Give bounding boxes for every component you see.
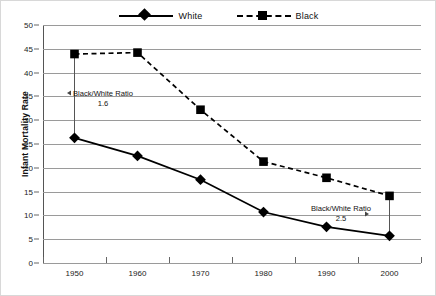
y-axis-tick-label: 25 <box>24 140 33 149</box>
y-axis-tick-mark <box>34 215 39 216</box>
chart-legend: White Black <box>1 7 436 25</box>
infant-mortality-chart: White Black Infant Mortality Rate 504540… <box>0 0 436 296</box>
y-axis-tick-label: 50 <box>24 21 33 30</box>
y-axis-tick-mark <box>34 48 39 49</box>
y-axis-tick-mark <box>34 263 39 264</box>
x-axis-tick-label: 1970 <box>192 269 210 278</box>
y-axis-tick-mark <box>34 191 39 192</box>
y-axis-tick-mark <box>34 25 39 26</box>
y-axis-tick-mark <box>34 120 39 121</box>
y-axis-tick-mark <box>34 96 39 97</box>
legend-label-white: White <box>178 11 202 21</box>
x-axis-tick-label: 2000 <box>381 269 399 278</box>
data-point-white <box>258 207 269 218</box>
y-axis-tick-label: 45 <box>24 44 33 53</box>
series-layer <box>43 25 421 263</box>
data-point-black <box>133 48 142 57</box>
legend-entry-white: White <box>119 10 202 22</box>
y-axis-tick-mark <box>34 72 39 73</box>
y-axis-tick-label: 30 <box>24 116 33 125</box>
gridline <box>43 263 421 264</box>
legend-entry-black: Black <box>237 10 319 22</box>
annotation-ratio-2000: Black/White Ratio 2.5 <box>311 204 371 225</box>
data-point-white <box>132 151 143 162</box>
x-axis-tick-mark <box>43 257 44 263</box>
annotation-arrow-icon <box>67 91 71 96</box>
annotation-ratio-1950: Black/White Ratio 1.6 <box>73 89 133 110</box>
x-axis-tick-mark <box>232 257 233 263</box>
y-axis-tick-label: 0 <box>29 259 33 268</box>
data-point-white <box>69 132 80 143</box>
y-axis-tick-label: 35 <box>24 92 33 101</box>
x-axis-tick-mark <box>295 257 296 263</box>
y-axis-tick-labels: 50454035302520151050 <box>15 25 39 263</box>
data-point-black <box>196 105 205 114</box>
y-axis-tick-mark <box>34 167 39 168</box>
series-line-black <box>75 53 390 196</box>
data-point-black <box>385 192 394 201</box>
data-point-black <box>259 157 268 166</box>
y-axis-tick-label: 20 <box>24 163 33 172</box>
data-point-black <box>70 50 79 59</box>
square-marker-icon <box>258 11 267 20</box>
y-axis-tick-mark <box>34 144 39 145</box>
x-axis-tick-label: 1950 <box>66 269 84 278</box>
annotation-value: 1.6 <box>73 99 133 109</box>
x-axis-tick-mark <box>421 257 422 263</box>
x-axis-tick-mark <box>358 257 359 263</box>
plot-area <box>43 25 421 263</box>
x-axis-tick-label: 1960 <box>129 269 147 278</box>
data-point-black <box>322 173 331 182</box>
annotation-label: Black/White Ratio <box>73 89 133 98</box>
legend-label-black: Black <box>296 11 319 21</box>
y-axis-tick-label: 40 <box>24 68 33 77</box>
x-axis-tick-mark <box>169 257 170 263</box>
data-point-white <box>384 230 395 241</box>
data-point-white <box>195 174 206 185</box>
y-axis-tick-label: 5 <box>29 235 33 244</box>
legend-key-black <box>237 10 291 22</box>
annotation-value: 2.5 <box>311 214 371 224</box>
y-axis-tick-label: 15 <box>24 187 33 196</box>
y-axis-tick-mark <box>34 239 39 240</box>
x-axis-tick-label: 1990 <box>318 269 336 278</box>
diamond-marker-icon <box>139 8 152 21</box>
legend-key-white <box>119 10 173 22</box>
x-axis-tick-mark <box>106 257 107 263</box>
x-axis-tick-label: 1980 <box>255 269 273 278</box>
y-axis-tick-label: 10 <box>24 211 33 220</box>
annotation-label: Black/White Ratio <box>311 204 371 213</box>
